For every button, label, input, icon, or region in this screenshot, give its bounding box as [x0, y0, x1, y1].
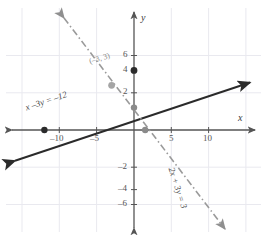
- x-tick-label-5: 5: [169, 133, 174, 143]
- point-y-intercept-dashdot: [131, 104, 137, 110]
- y-tick-label--2: –2: [118, 161, 127, 171]
- y-tick-label--6: –6: [118, 198, 127, 208]
- point-x-intercept-solid: [41, 127, 47, 133]
- point-intersection: [108, 82, 115, 89]
- point-y-intercept-solid: [131, 67, 138, 74]
- y-tick-label--4: –4: [118, 183, 127, 193]
- x-tick-label--5: –5: [90, 133, 99, 143]
- x-tick-label-10: 10: [203, 133, 212, 143]
- x-tick-label--10: –10: [50, 133, 64, 143]
- point-x-intercept-dashdot: [142, 127, 148, 133]
- y-tick-label-4: 4: [123, 64, 128, 74]
- axis-lines: [12, 12, 255, 228]
- coordinate-plane-svg: [0, 0, 267, 240]
- y-tick-label-2: 2: [123, 86, 128, 96]
- graph-figure: –10 –5 5 10 6 4 2 –2 –4 –6 y x x –3y = –…: [0, 0, 267, 240]
- y-axis-label: y: [141, 12, 145, 23]
- y-tick-label-6: 6: [123, 49, 128, 59]
- x-axis-label: x: [238, 112, 242, 123]
- line-2x-plus-3y: [64, 18, 225, 229]
